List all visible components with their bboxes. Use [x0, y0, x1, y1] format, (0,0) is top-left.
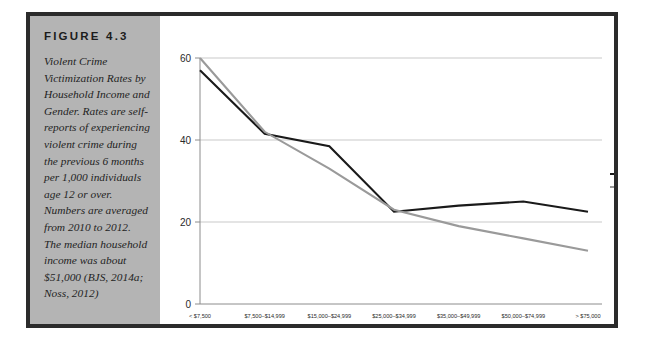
series-line-men [200, 70, 588, 211]
gridlines-group [200, 58, 602, 222]
figure-heading: FIGURE 4.3 [44, 30, 150, 42]
x-axis-tick-label: $15,000–$24,999 [308, 313, 352, 319]
figure-caption-panel: FIGURE 4.3 Violent Crime Victimization R… [30, 16, 160, 324]
figure-frame: FIGURE 4.3 Violent Crime Victimization R… [26, 12, 618, 328]
figure-caption-text: Violent Crime Victimization Rates by Hou… [44, 53, 150, 302]
x-axis-tick-label: < $7,500 [189, 313, 211, 319]
line-chart-svg: 0204060 < $7,500$7,500–$14,999$15,000–$2… [160, 16, 614, 324]
y-axis-tick-label: 40 [180, 135, 192, 146]
x-axis-tick-label: > $75,000 [575, 313, 600, 319]
x-axis-tick-label: $50,000–$74,999 [502, 313, 546, 319]
axis-group [195, 58, 602, 304]
x-axis-tick-labels: < $7,500$7,500–$14,999$15,000–$24,999$25… [189, 313, 600, 319]
x-axis-tick-label: $7,500–$14,999 [244, 313, 284, 319]
y-axis-tick-label: 60 [180, 53, 192, 64]
x-axis-tick-label: $25,000–$34,999 [372, 313, 416, 319]
y-axis-tick-label: 20 [180, 217, 192, 228]
y-axis-tick-label: 0 [185, 299, 191, 310]
figure-root: FIGURE 4.3 Violent Crime Victimization R… [0, 0, 646, 346]
chart-plot-area: 0204060 < $7,500$7,500–$14,999$15,000–$2… [160, 16, 614, 324]
y-axis-tick-labels: 0204060 [180, 53, 192, 310]
chart-legend: MenWomen [610, 170, 614, 192]
x-axis-tick-label: $35,000–$49,999 [437, 313, 481, 319]
